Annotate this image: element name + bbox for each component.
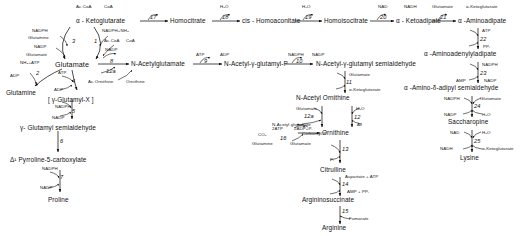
cofactor-adp-9: ADP — [220, 52, 229, 57]
metabolite-alpha-aminoadipate: α -Aminoadipate — [458, 17, 506, 24]
cofactor-ppi-22: PPᵢ — [483, 44, 490, 49]
step-14: 14 — [342, 181, 348, 187]
cofactor-coa-8: CoA — [126, 38, 135, 43]
cofactor-ornithine-12a: Ornithine — [126, 79, 145, 84]
cofactor-nadph-23: NADPH — [482, 62, 498, 67]
cofactor-atp-9: ATP — [196, 52, 205, 57]
cofactor-h2o-19: H₂O — [302, 4, 311, 9]
cofactor-fumarate-15: Fumarate — [349, 216, 369, 221]
step-3: 3 — [72, 38, 75, 44]
step-25: 25 — [474, 138, 480, 144]
pathway-diagram: Ac.CoA CoA 17 α - Ketoglutarate Homocitr… — [0, 0, 525, 236]
step-10: 10 — [296, 58, 302, 64]
cofactor-nadph-3: NADPH — [32, 28, 48, 33]
metabolite-cis-homoaconitate: cis - Homoaconitate — [242, 17, 300, 24]
metabolite-pyrroline-5-carboxylate: Δ¹ Pyrroline-5-carboxylate — [10, 156, 86, 163]
step-24: 24 — [474, 103, 480, 109]
metabolite-n-acetyl-gamma-glutamyl-p: N-Acetyl-γ-glutamyl-P — [224, 60, 288, 67]
cofactor-nadph-24: NADPH — [444, 96, 460, 101]
cofactor-nadp-10: NADP — [312, 52, 325, 57]
cofactor-atp-4: ATP — [58, 70, 67, 75]
cofactor-pi-13: Pᵢ — [330, 157, 334, 162]
cofactor-aspartate-atp-14: Aspartate + ATP — [345, 174, 378, 179]
cofactor-nadph-5: NADPH — [55, 104, 71, 109]
step-17: 17 — [150, 14, 156, 20]
step-19: 19 — [305, 14, 311, 20]
cofactor-atp-22: ATP — [482, 28, 491, 33]
cofactor-h2o-25: H₂O — [482, 130, 491, 135]
metabolite-citrulline: Citrulline — [320, 166, 346, 173]
step-8: 8 — [110, 58, 113, 64]
cofactor-nh3-atp-2: NH₃+ATP — [20, 60, 40, 65]
step-12a-left: 12a — [106, 68, 116, 74]
metabolite-arginine: Arginine — [322, 224, 346, 231]
step-1: 1 — [94, 38, 97, 44]
cofactor-nadph-10: NADPH — [288, 52, 304, 57]
cofactor-h2o-18: H₂O — [220, 4, 229, 9]
metabolite-saccharopine: Saccharopine — [448, 118, 488, 125]
cofactor-glutamate-21: Glutamate — [432, 4, 453, 9]
cofactor-glutamate-12a: Glutamate — [296, 106, 317, 111]
cofactor-ac-12: Ac — [357, 122, 362, 127]
step-15: 15 — [342, 208, 348, 214]
metabolite-glutamate: Glutamate — [55, 60, 89, 69]
pathway-arrows — [0, 0, 525, 236]
cofactor-nadph-7: NADPH — [42, 166, 58, 171]
metabolite-alpha-ketoadipate: α - Ketoadipate — [396, 17, 441, 24]
metabolite-proline: Proline — [48, 196, 69, 203]
step-6: 6 — [60, 138, 63, 144]
cofactor-nadp-7: NADP — [40, 185, 53, 190]
cofactor-nadp-23: NADP — [484, 78, 497, 83]
step-2: 2 — [36, 70, 39, 76]
cofactor-adp-2: ADP — [10, 73, 19, 78]
cofactor-nad-25: NAD — [450, 130, 460, 135]
step-21: 21 — [440, 14, 446, 20]
metabolite-carbamyl-p: Carbamyl-P — [302, 131, 326, 136]
metabolite-lysine: Lysine — [460, 154, 479, 161]
cofactor-amp-ppi-14: AMP + PPᵢ — [347, 189, 369, 194]
metabolite-gamma-glutamyl-x: [ γ-Glutamyl-X ] — [48, 96, 94, 103]
cofactor-coa-17: CoA — [104, 4, 113, 9]
cofactor-2atp-16: 2ATP — [272, 126, 283, 131]
step-9: 9 — [204, 58, 207, 64]
cofactor-akg-25: α-Ketoglutarate — [482, 146, 514, 151]
cofactor-nad-20: NAD — [378, 4, 388, 9]
metabolite-gamma-glutamyl-semialdehyde: γ- Glutamyl semialdehyde — [20, 124, 96, 131]
cofactor-h2o-24: H₂O — [482, 112, 491, 117]
metabolite-n-acetylglutamate: N-Acetylglutamate — [131, 60, 185, 67]
cofactor-glutamine-16: Glutamine — [252, 141, 273, 146]
cofactor-glutamate-24: Glutamate — [480, 96, 501, 101]
cofactor-nadp-3: NADP — [34, 44, 47, 49]
cofactor-akg-11: α-Ketoglutarate — [349, 87, 381, 92]
step-20: 20 — [380, 14, 386, 20]
metabolite-alpha-aminoadenylyladipate: α -Aminoadenylyladipate — [424, 50, 496, 57]
step-13: 13 — [342, 146, 348, 152]
metabolite-homocitrate: Homocitrate — [170, 17, 206, 24]
metabolite-homoisocitrate: Homoisocitrate — [324, 17, 368, 24]
metabolite-n-acetyl-gamma-glutamyl-semialdehyde: N-Acetyl-γ-glutamyl semialdehyde — [316, 60, 416, 67]
cofactor-glutamate-11: Glutamate — [349, 72, 370, 77]
step-11: 11 — [346, 79, 352, 85]
cofactor-akg-21: α-Ketoglutarate — [466, 4, 498, 9]
cofactor-adp-4: ADP — [54, 87, 63, 92]
step-16: 16 — [280, 135, 286, 141]
metabolite-alpha-ketoglutarate: α - Ketoglutarate — [76, 17, 125, 24]
cofactor-nadp-24: NADP — [444, 112, 457, 117]
step-7: 7 — [60, 174, 63, 180]
cofactor-ac-ornithine-12a: Ac.Ornithine — [88, 79, 113, 84]
cofactor-nadph-nh3-1: NADPH+NH₃ — [102, 28, 129, 33]
cofactor-nadp-5: NADP — [52, 115, 65, 120]
cofactor-glutamate-16: Glutamate — [290, 141, 311, 146]
metabolite-alpha-amino-delta-adipyl-semialdehyde: α -Amino-δ-adipyl semialdehyde — [404, 84, 498, 91]
step-18: 18 — [222, 14, 228, 20]
cofactor-h2o-12: H₂O — [356, 106, 365, 111]
cofactor-glutamine-3: Glutamine — [28, 35, 49, 40]
cofactor-accoa-17: Ac.CoA — [76, 4, 92, 9]
cofactor-nadh-20: NADH — [404, 4, 417, 9]
step-22: 22 — [480, 36, 486, 42]
cofactor-accoa-8: Ac.CoA — [104, 38, 120, 43]
metabolite-argininosuccinate: Argininosuccinate — [302, 196, 354, 203]
cofactor-amp-23: AMP — [456, 78, 466, 83]
cofactor-glutamate-3: Glutamate — [26, 52, 47, 57]
step-23: 23 — [480, 70, 486, 76]
